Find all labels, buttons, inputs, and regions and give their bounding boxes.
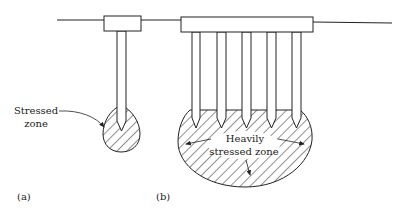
panel-b-pile-group: Heavily stressed zone (b) (156, 17, 313, 202)
pile-shaft (292, 32, 301, 128)
pile-shaft (217, 32, 226, 128)
pile-stress-zone-diagram: Stressed zone (a) Heavily stressed zone … (0, 0, 407, 214)
panel-b-label: (b) (156, 191, 170, 202)
heavily-stressed-label-line2: stressed zone (209, 146, 278, 157)
pile-cap-small (104, 16, 141, 31)
panel-a-single-pile: Stressed zone (a) (14, 16, 141, 202)
panel-a-label: (a) (17, 191, 31, 202)
pile-shaft (117, 31, 126, 131)
pile-shaft (242, 32, 251, 128)
heavily-stressed-label-line1: Heavily (226, 133, 265, 144)
pile-shaft (192, 32, 200, 128)
stressed-zone-arrow (59, 111, 104, 127)
stressed-zone-label-line2: zone (24, 118, 48, 129)
pile-cap-large (181, 17, 313, 32)
pile-shaft (267, 32, 276, 128)
stressed-zone-label-line1: Stressed (14, 105, 59, 116)
